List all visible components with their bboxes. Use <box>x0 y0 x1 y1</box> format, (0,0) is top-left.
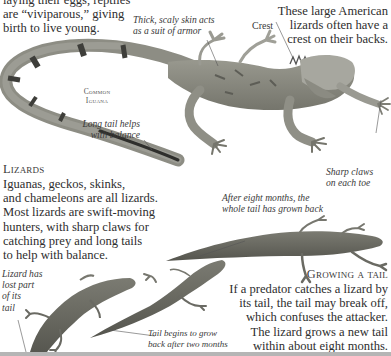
callout-line: lost part <box>2 279 52 290</box>
callout-line: Thick, scaly skin acts <box>133 14 243 25</box>
callout-line: on each toe <box>326 177 388 188</box>
body-line: within about eight months. <box>168 339 388 353</box>
body-line: Most lizards are swift-moving <box>3 205 203 219</box>
callout-line: tail <box>2 302 52 313</box>
intro-line: laying their eggs, reptiles <box>3 0 143 7</box>
label-line: Iguana <box>72 96 122 105</box>
book-page: laying their eggs, reptiles are “vivipar… <box>0 0 391 356</box>
growing-tail-section: Growing a tail If a predator catches a l… <box>168 267 388 353</box>
callout-line: After eight months, the <box>222 192 362 203</box>
intro-line: are “viviparous,” giving <box>3 7 143 21</box>
intro-line: birth to live young. <box>3 21 143 35</box>
iguana-name-label: Common Iguana <box>72 87 122 105</box>
body-line: catching prey and long tails <box>3 234 203 248</box>
body-line: which confuses the attacker. <box>168 310 388 324</box>
callout-scaly-skin: Thick, scaly skin acts as a suit of armo… <box>133 14 243 36</box>
body-line: its tail, the tail may break off, <box>168 296 388 310</box>
label-line: Common <box>72 87 122 96</box>
callout-long-tail: Long tail helps with balance <box>60 118 140 140</box>
callout-line: of its <box>2 290 52 301</box>
callout-eight-months: After eight months, the whole tail has g… <box>222 192 362 214</box>
callout-lost-tail: Lizard has lost part of its tail <box>2 268 52 313</box>
callout-crest: Crest <box>252 20 273 31</box>
body-line: to help with balance. <box>3 248 203 262</box>
callout-sharp-claws: Sharp claws on each toe <box>326 166 388 188</box>
section-body: If a predator catches a lizard by its ta… <box>168 282 388 353</box>
iguana-intro-line: These large American <box>248 4 388 18</box>
callout-line: Long tail helps <box>60 118 140 129</box>
iguana-body <box>168 31 390 154</box>
body-line: hunters, with sharp claws for <box>3 220 203 234</box>
iguana-intro-line: crest on their backs. <box>248 32 388 46</box>
callout-line: Sharp claws <box>326 166 388 177</box>
body-line: The lizard grows a new tail <box>168 325 388 339</box>
callout-line: with balance <box>60 129 140 140</box>
section-heading: Growing a tail <box>168 267 388 282</box>
body-line: and chameleons are all lizards. <box>3 191 203 205</box>
callout-line: as a suit of armor <box>133 25 243 36</box>
lizards-section: Lizards Iguanas, geckos, skinks, and cha… <box>3 162 203 262</box>
callout-line: Lizard has <box>2 268 52 279</box>
body-line: Iguanas, geckos, skinks, <box>3 177 203 191</box>
body-line: If a predator catches a lizard by <box>168 282 388 296</box>
intro-paragraph: laying their eggs, reptiles are “vivipar… <box>3 0 143 36</box>
section-body: Iguanas, geckos, skinks, and chameleons … <box>3 177 203 262</box>
section-heading: Lizards <box>3 162 203 177</box>
callout-line: whole tail has grown back <box>222 203 362 214</box>
page-bottom-rule <box>0 352 391 356</box>
